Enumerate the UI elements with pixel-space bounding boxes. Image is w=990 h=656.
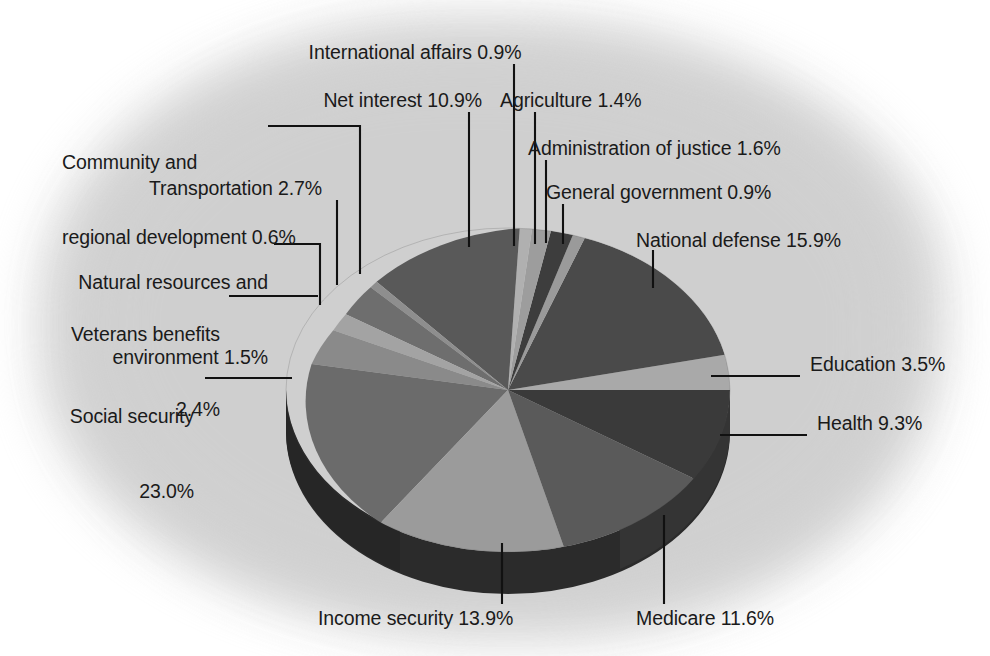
label-international-affairs: International affairs 0.9% <box>286 40 544 65</box>
label-agriculture: Agriculture 1.4% <box>500 88 740 113</box>
label-administration-of-justice: Administration of justice 1.6% <box>528 136 858 161</box>
label-transportation: Transportation 2.7% <box>90 176 322 201</box>
label-health: Health 9.3% <box>817 411 987 436</box>
label-social-security-line2: 23.0% <box>20 479 194 504</box>
label-net-interest: Net interest 10.9% <box>250 88 482 113</box>
label-general-government: General government 0.9% <box>546 180 846 205</box>
label-income-security: Income security 13.9% <box>318 606 598 631</box>
label-national-defense: National defense 15.9% <box>636 228 956 253</box>
label-social-security-line1: Social security <box>20 404 194 429</box>
label-medicare: Medicare 11.6% <box>636 606 876 631</box>
label-veterans-line1: Veterans benefits <box>28 322 220 347</box>
label-education: Education 3.5% <box>810 352 990 377</box>
label-community-line1: Community and <box>62 150 277 175</box>
label-social-security: Social security 23.0% <box>20 354 194 554</box>
